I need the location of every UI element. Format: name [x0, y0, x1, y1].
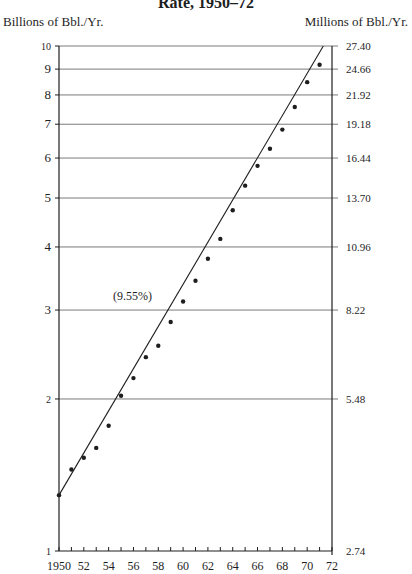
data-point: [243, 183, 247, 187]
data-point: [168, 320, 172, 324]
x-tick-label: 62: [202, 559, 214, 573]
x-tick-label: 56: [127, 559, 139, 573]
y-tick-label-left: 3: [45, 302, 52, 317]
data-point: [106, 424, 110, 428]
data-point: [218, 237, 222, 241]
y-tick-label-right: 19.18: [346, 118, 371, 130]
data-point: [305, 80, 309, 84]
y-tick-label-left: 4: [45, 239, 52, 254]
y-tick-label-right: 24.66: [346, 63, 371, 75]
y-tick-label-left: 8: [45, 87, 52, 102]
data-point: [156, 343, 160, 347]
y-tick-label-left: 9: [45, 61, 52, 76]
data-point: [280, 127, 284, 131]
x-tick-label: 54: [103, 559, 115, 573]
data-point: [69, 467, 73, 471]
data-point: [57, 493, 61, 497]
chart-plot-area: 12.7425.4838.22410.96513.70616.44719.188…: [0, 0, 412, 574]
y-tick-label-left: 6: [45, 150, 52, 165]
data-point: [82, 456, 86, 460]
y-tick-label-left: 2: [46, 394, 51, 405]
data-point: [131, 376, 135, 380]
x-tick-label: 70: [301, 559, 313, 573]
y-tick-label-right: 27.40: [346, 40, 371, 52]
y-tick-label-right: 2.74: [346, 545, 366, 557]
data-point: [193, 278, 197, 282]
y-tick-label-right: 5.48: [346, 393, 366, 405]
data-point: [119, 394, 123, 398]
y-tick-label-right: 10.96: [346, 241, 371, 253]
y-tick-label-right: 8.22: [346, 304, 365, 316]
x-tick-label: 72: [326, 559, 338, 573]
y-tick-label-left: 7: [45, 116, 52, 131]
y-tick-label-left: 10: [41, 41, 51, 52]
y-tick-label-left: 5: [45, 190, 52, 205]
y-tick-label-left: 1: [46, 546, 51, 557]
data-point: [231, 208, 235, 212]
x-tick-label: 68: [276, 559, 288, 573]
data-point: [144, 355, 148, 359]
growth-rate-annotation: (9.55%): [113, 289, 152, 303]
y-tick-label-right: 13.70: [346, 192, 371, 204]
data-point: [181, 299, 185, 303]
data-point: [206, 257, 210, 261]
x-tick-label: 60: [177, 559, 189, 573]
y-tick-label-right: 16.44: [346, 152, 371, 164]
x-tick-label: 64: [227, 559, 239, 573]
x-tick-label: 1950: [47, 559, 71, 573]
x-tick-label: 66: [252, 559, 264, 573]
x-tick-label: 52: [78, 559, 90, 573]
data-point: [317, 63, 321, 67]
trend-line: [59, 46, 323, 495]
x-tick-label: 58: [152, 559, 164, 573]
y-tick-label-right: 21.92: [346, 89, 371, 101]
data-point: [293, 105, 297, 109]
data-point: [255, 164, 259, 168]
data-point: [268, 147, 272, 151]
data-point: [94, 446, 98, 450]
